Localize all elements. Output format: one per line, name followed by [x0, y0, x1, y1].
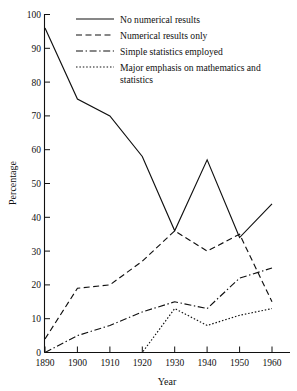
legend-label: Numerical results only	[120, 30, 208, 41]
series-no-numerical-results	[45, 28, 272, 238]
x-tick-label: 1950	[230, 358, 249, 368]
legend-entry-simple-statistics-employed: Simple statistics employed	[76, 46, 223, 57]
y-tick-label: 80	[32, 78, 42, 88]
y-tick-label: 30	[32, 247, 42, 257]
y-tick-label: 70	[32, 111, 42, 121]
x-tick-label: 1920	[133, 358, 152, 368]
x-tick-label: 1900	[68, 358, 87, 368]
x-tick-label: 1890	[36, 358, 55, 368]
y-tick-label: 90	[32, 44, 42, 54]
x-axis-title: Year	[158, 376, 177, 387]
y-tick-label: 10	[32, 314, 42, 324]
y-tick-labels: 0 10 20 30 40 50 60 70 80 90 100	[27, 10, 42, 358]
legend-label: Simple statistics employed	[120, 46, 223, 57]
x-tick-label: 1910	[100, 358, 119, 368]
y-tick-label: 0	[36, 348, 41, 358]
y-tick-label: 20	[32, 280, 42, 290]
x-tick-labels: 1890 1900 1910 1920 1930 1940 1950 1960	[36, 358, 282, 368]
series-simple-statistics-employed	[45, 268, 272, 353]
x-tick-label: 1930	[165, 358, 184, 368]
series-numerical-results-only	[45, 231, 272, 339]
legend-entry-numerical-results-only: Numerical results only	[76, 30, 208, 41]
series-group	[45, 28, 272, 352]
legend-label: No numerical results	[120, 14, 200, 25]
line-chart-svg: 0 10 20 30 40 50 60 70 80 90 100 1890 19	[0, 0, 297, 391]
legend-label: Major emphasis on mathematics and	[120, 62, 261, 73]
x-tick-label: 1960	[263, 358, 282, 368]
x-tick-label: 1940	[198, 358, 217, 368]
y-tick-label: 100	[27, 10, 42, 20]
y-tick-marks	[45, 15, 51, 353]
y-axis-title: Percentage	[7, 161, 18, 205]
y-tick-label: 40	[32, 213, 42, 223]
legend-label-continuation: statistics	[120, 74, 153, 85]
legend-entry-major-emphasis-mathematics-statistics: Major emphasis on mathematics and statis…	[76, 62, 261, 85]
series-major-emphasis-mathematics-statistics	[45, 309, 272, 353]
chart-figure: 0 10 20 30 40 50 60 70 80 90 100 1890 19	[0, 0, 297, 391]
legend-entry-no-numerical-results: No numerical results	[76, 14, 200, 25]
x-tick-marks	[45, 347, 272, 353]
y-tick-label: 50	[32, 179, 42, 189]
legend: No numerical results Numerical results o…	[76, 14, 261, 85]
y-tick-label: 60	[32, 145, 42, 155]
